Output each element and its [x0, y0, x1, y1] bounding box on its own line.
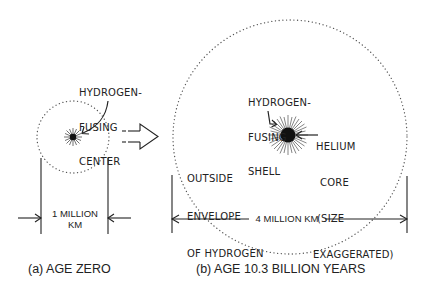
- label-hydrogen-fusing-center: HYDROGEN- FUSING CENTER: [79, 64, 142, 191]
- label-line: OUTSIDE: [187, 173, 264, 186]
- label-line: CENTER: [79, 156, 142, 168]
- label-helium-core: HELIUM CORE (SIZE EXAGGERATED): [313, 117, 394, 285]
- label-line: HELIUM: [313, 141, 394, 153]
- label-line: 1 MILLION: [46, 208, 104, 219]
- center-core-dot: [70, 134, 76, 140]
- label-line: KM: [46, 219, 104, 230]
- label-line: EXAGGERATED): [313, 249, 394, 261]
- dimension-label-4-million-km: 4 MILLION KM: [252, 213, 322, 224]
- label-line: FUSING: [79, 122, 142, 134]
- label-line: OF HYDROGEN: [187, 248, 264, 261]
- label-line: CORE: [313, 177, 394, 189]
- caption-age-10-3-billion: (b) AGE 10.3 BILLION YEARS: [196, 262, 365, 276]
- label-line: (SIZE: [313, 213, 394, 225]
- label-line: FUSING: [248, 132, 311, 144]
- star-evolution-diagram: HYDROGEN- FUSING CENTER 1 MILLION KM (a)…: [0, 0, 421, 294]
- label-line: HYDROGEN-: [248, 97, 311, 109]
- dimension-label-1-million-km: 1 MILLION KM: [46, 208, 104, 230]
- caption-age-zero: (a) AGE ZERO: [28, 262, 111, 276]
- label-line: HYDROGEN-: [79, 87, 142, 99]
